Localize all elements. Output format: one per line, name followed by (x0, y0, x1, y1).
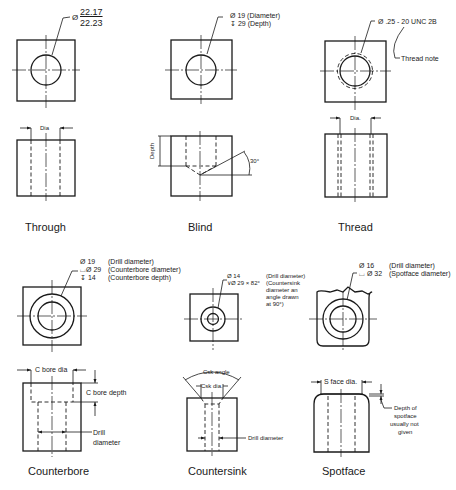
spotface-note-desc-2: (Spotface diameter) (389, 270, 450, 277)
counterbore-note-desc-2: (Counterbore diameter) (108, 266, 181, 273)
blind-depth-label: Depth (149, 143, 155, 159)
through-dia-label: Dia (40, 125, 49, 131)
through-front-view (17, 127, 75, 202)
blind-angle-label: 30° (250, 158, 259, 164)
thread-caption: Thread (338, 222, 373, 233)
counterbore-note-desc-3: (Counterbore depth) (108, 274, 171, 281)
spotface-caption: Spotface (322, 466, 365, 477)
blind-top-view (165, 17, 237, 104)
through-caption: Through (25, 222, 66, 233)
countersink-top-view (184, 280, 243, 350)
counterbore-caption: Counterbore (28, 466, 89, 477)
spotface-note-sym-2: ⌴ Ø 32 (359, 270, 382, 277)
counterbore-note-sym-3: ↧ 14 (80, 274, 96, 281)
counterbore-top-view (17, 271, 87, 352)
thread-note-label: Thread note (401, 55, 439, 62)
counterbore-drill-label-2: diameter (93, 439, 120, 446)
thread-dia-label: Dia. (350, 115, 361, 121)
countersink-desc-2: (Countersink (266, 280, 300, 286)
spotface-depth-label-2: spotface (394, 413, 417, 419)
spotface-note-desc-1: (Drill diameter) (389, 262, 435, 269)
thread-spec: Ø .25 - 20 UNC 2B (378, 18, 437, 25)
blind-note-diameter: Ø 19 (Diameter) (230, 12, 280, 19)
through-tolerance-lower: 22.23 (80, 19, 103, 28)
spotface-top-view (309, 273, 377, 352)
countersink-desc-5: at 90°) (266, 301, 284, 307)
thread-front-view (325, 117, 387, 203)
spotface-front-view (311, 380, 392, 457)
countersink-note-drill: Ø 14 (227, 273, 240, 279)
countersink-desc-4: angle drawn (266, 294, 299, 300)
spotface-depth-label-4: given (398, 429, 412, 435)
counterbore-note-sym-2: ⌴Ø 29 (80, 266, 101, 273)
counterbore-cbore-depth-label: C bore depth (86, 389, 126, 396)
through-tolerance-upper: 22.17 (80, 8, 103, 17)
thread-top-view (320, 21, 404, 110)
blind-front-view (158, 131, 252, 201)
countersink-desc-3: diameter an (266, 287, 298, 293)
counterbore-note-sym-1: Ø 19 (80, 258, 95, 265)
spotface-sface-dia-label: S face dia. (324, 378, 357, 385)
countersink-caption: Countersink (188, 466, 247, 477)
spotface-depth-label-1: Depth of (394, 405, 417, 411)
spotface-note-sym-1: Ø 16 (359, 262, 374, 269)
countersink-drill-label: Drill diameter (248, 435, 283, 441)
through-diameter-symbol: Ø (72, 14, 78, 22)
spotface-depth-label-3: usually not (390, 421, 419, 427)
blind-note-depth: ↧ 29 (Depth) (230, 20, 271, 27)
counterbore-front-view (17, 369, 98, 458)
blind-caption: Blind (188, 222, 212, 233)
countersink-desc-1: (Drill diameter) (266, 273, 305, 279)
counterbore-note-desc-1: (Drill diameter) (108, 258, 154, 265)
countersink-note-csk: ∨Ø 29 × 82° (227, 280, 260, 286)
countersink-angle-label: Csk angle (203, 369, 230, 375)
counterbore-cbore-dia-label: C bore dia (35, 366, 67, 373)
through-top-view (12, 17, 80, 108)
hole-types-drawing (0, 0, 456, 490)
countersink-dia-label: Csk dia. (201, 383, 223, 389)
counterbore-drill-label-1: Drill (93, 429, 105, 436)
